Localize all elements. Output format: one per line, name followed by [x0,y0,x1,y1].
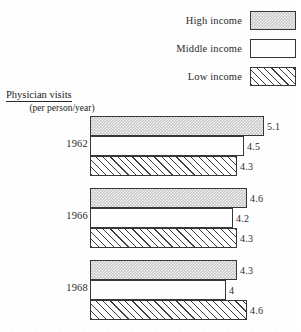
legend-item-high-income: High income [150,10,296,31]
category-label-1962: 1962 [56,138,88,149]
bar-high-income [90,260,237,280]
legend-label-middle-income: Middle income [176,43,242,54]
bar-group-1966: 1966 4.6 4.2 4.3 [0,188,301,250]
bar-value-middle-income: 4 [229,285,234,296]
bar-row-low-income: 4.6 [90,300,263,320]
bar-middle-income [90,280,226,300]
bar-middle-income [90,208,233,228]
bar-row-high-income: 4.3 [90,260,253,280]
bar-low-income [90,228,237,248]
bar-group-1968: 1968 4.3 4 4.6 [0,260,301,322]
bar-value-low-income: 4.3 [240,161,253,172]
legend-label-high-income: High income [186,15,242,26]
bar-row-middle-income: 4.2 [90,208,249,228]
bar-row-high-income: 4.6 [90,188,263,208]
bar-value-low-income: 4.6 [250,305,263,316]
bar-value-high-income: 4.6 [250,193,263,204]
bar-row-middle-income: 4.5 [90,136,260,156]
bar-low-income [90,156,237,176]
bar-value-middle-income: 4.2 [236,213,249,224]
bar-high-income [90,188,247,208]
bar-row-low-income: 4.3 [90,156,253,176]
legend-swatch-high-income [250,11,296,30]
legend-swatch-low-income [250,67,296,86]
bar-value-low-income: 4.3 [240,233,253,244]
bar-value-middle-income: 4.5 [247,141,260,152]
legend-item-low-income: Low income [150,66,296,87]
bar-value-high-income: 5.1 [267,121,280,132]
bar-low-income [90,300,247,320]
bar-row-high-income: 5.1 [90,116,280,136]
legend-swatch-middle-income [250,39,296,58]
bar-value-high-income: 4.3 [240,265,253,276]
bar-row-low-income: 4.3 [90,228,253,248]
axis-label-title: Physician visits [6,88,72,102]
category-label-1966: 1966 [56,210,88,221]
axis-label: Physician visits (per person/year) [6,84,126,115]
bar-group-1962: 1962 5.1 4.5 4.3 [0,116,301,178]
bar-chart-plot: 1962 5.1 4.5 4.3 1966 4.6 4.2 4.3 [0,116,301,332]
bar-high-income [90,116,264,136]
legend-item-middle-income: Middle income [150,38,296,59]
chart-legend: High income Middle income Low income [150,10,296,94]
bar-middle-income [90,136,244,156]
legend-label-low-income: Low income [188,71,242,82]
axis-label-units: (per person/year) [6,102,118,115]
category-label-1968: 1968 [56,282,88,293]
bar-row-middle-income: 4 [90,280,234,300]
